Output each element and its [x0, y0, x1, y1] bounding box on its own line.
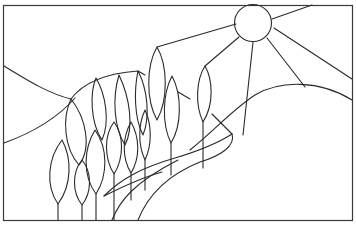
tree-8	[124, 122, 138, 173]
right-hill	[190, 84, 352, 150]
tree-ridge	[71, 71, 145, 99]
tree-10	[140, 110, 151, 160]
tree-4	[66, 99, 87, 165]
path-lower-edge	[138, 134, 233, 220]
lower-left-hill	[4, 98, 75, 143]
tree-11	[149, 47, 166, 120]
tree-1	[50, 140, 69, 204]
tree-6	[107, 122, 122, 174]
left-hill	[4, 66, 71, 99]
sun-icon	[235, 5, 272, 42]
tree-13	[198, 66, 212, 122]
sun-rays	[157, 5, 352, 135]
frame-border	[4, 6, 353, 221]
stained-glass-pattern	[0, 0, 356, 228]
tree-13-branch	[212, 114, 232, 134]
tree-2	[75, 160, 90, 205]
tree-12	[164, 76, 179, 143]
line-drawing	[0, 0, 356, 228]
tree-7	[115, 75, 130, 145]
slope-line	[104, 172, 162, 196]
tree-9	[135, 71, 147, 135]
